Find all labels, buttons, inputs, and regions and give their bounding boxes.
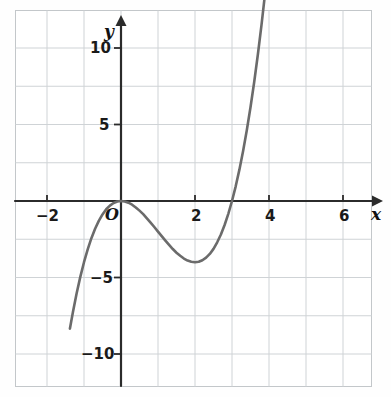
y-axis-label: y [104,23,114,40]
x-tick-label: −2 [36,209,59,224]
coordinate-plane [0,0,391,397]
x-tick-label: 6 [339,209,349,224]
origin-label: O [105,207,119,223]
y-tick-label: 10 [90,41,111,56]
x-tick-label: 2 [191,209,201,224]
x-axis-label: x [371,206,381,223]
y-tick-label: 5 [99,118,109,133]
y-tick-label: −10 [81,347,114,362]
x-tick-label: 4 [265,209,275,224]
y-tick-label: −5 [90,271,113,286]
plot-frame [16,11,372,387]
graph-figure: y x O −2246 105−5−10 [0,0,391,397]
